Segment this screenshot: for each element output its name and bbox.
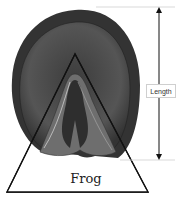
- hoof-diagram: Length Frog: [0, 0, 183, 203]
- length-label: Length: [146, 84, 176, 98]
- arrow-up-icon: [156, 7, 162, 13]
- frog-label: Frog: [56, 171, 116, 186]
- arrow-down-icon: [156, 154, 162, 160]
